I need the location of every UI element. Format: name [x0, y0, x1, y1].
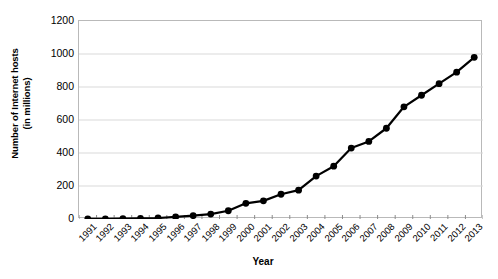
x-axis-tick-label: 2004	[304, 221, 327, 244]
x-axis-tick-label: 2013	[462, 221, 485, 244]
data-point	[330, 163, 337, 170]
data-point	[190, 212, 197, 219]
y-axis-title-line1: Number of Internet hosts	[9, 16, 21, 192]
y-axis-tick-label: 600	[34, 113, 74, 125]
data-point	[207, 211, 214, 218]
y-axis-tick-label: 0	[34, 212, 74, 224]
data-point	[278, 191, 285, 198]
data-point	[260, 197, 267, 204]
data-point	[365, 138, 372, 145]
chart-figure: Number of Internet hosts (in millions) 0…	[0, 0, 498, 279]
y-axis-tick-label: 200	[34, 179, 74, 191]
x-axis-tick-label: 1997	[181, 221, 204, 244]
data-point	[453, 69, 460, 76]
data-point	[348, 145, 355, 152]
data-point	[313, 173, 320, 180]
x-axis-title-text: Year	[224, 256, 273, 267]
chart-canvas	[79, 21, 483, 219]
x-axis-tick-labels: 1991199219931994199519961997199819992000…	[78, 219, 482, 261]
y-axis-tick-label: 400	[34, 146, 74, 158]
data-point	[383, 125, 390, 132]
y-axis-title: Number of Internet hosts (in millions)	[9, 16, 32, 192]
data-point	[242, 200, 249, 207]
series-markers-internet-hosts	[84, 54, 477, 219]
data-point	[401, 103, 408, 110]
data-point	[225, 207, 232, 214]
x-axis-tick-label: 2009	[392, 221, 415, 244]
y-axis-tick-label: 1200	[34, 14, 74, 26]
data-point	[471, 54, 478, 61]
y-axis-tick-label: 800	[34, 80, 74, 92]
data-point	[418, 92, 425, 99]
gridlines	[79, 54, 483, 186]
data-point	[295, 187, 302, 194]
x-axis-tick-label: 2006	[339, 221, 362, 244]
y-axis-tick-label: 1000	[34, 47, 74, 59]
x-axis-tick-label: 2002	[269, 221, 292, 244]
x-axis-tick-label: 1995	[146, 221, 169, 244]
data-point	[436, 80, 443, 87]
x-axis-tick-label: 2011	[428, 221, 450, 243]
x-axis-title: Year	[0, 256, 498, 267]
plot-area	[78, 20, 482, 218]
y-axis-tick-labels: 020040060080010001200	[30, 0, 74, 279]
